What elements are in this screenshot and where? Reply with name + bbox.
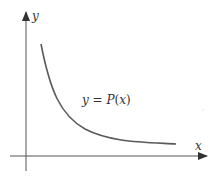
y-axis-label: y	[31, 9, 39, 23]
stray-dot	[202, 109, 203, 110]
curve-label: y = P(x)	[81, 93, 131, 107]
x-axis-label: x	[195, 139, 202, 153]
graph-diagram: y x y = P(x)	[0, 0, 215, 178]
